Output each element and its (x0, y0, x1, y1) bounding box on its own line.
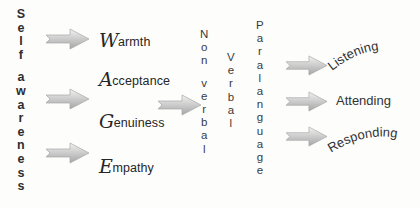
block-arrow-right-icon (46, 142, 90, 164)
diagram-canvas: Selfawareness Warmth Acceptance (0, 0, 420, 208)
stacked-letter: e (201, 91, 207, 104)
stacked-letter: w (16, 85, 26, 99)
skill-responding: Responding (330, 126, 420, 162)
stacked-letter: r (229, 78, 233, 91)
stacked-letter: a (257, 139, 263, 152)
stacked-letter: n (17, 139, 25, 153)
quality-genuiness: Genuiness (99, 110, 165, 132)
stacked-letter: n (201, 55, 207, 68)
block-arrow-right-icon (286, 91, 328, 112)
stacked-letter: e (17, 153, 24, 167)
stacked-letter: e (17, 126, 24, 140)
skill-attending: Attending (336, 93, 391, 108)
skill-label: Responding (325, 124, 399, 155)
quality-warmth: Warmth (99, 29, 150, 51)
stacked-letter: f (19, 49, 23, 63)
stacked-letter: a (228, 105, 234, 118)
stacked-letter: a (257, 60, 263, 73)
quality-remainder: enuiness (114, 116, 165, 130)
quality-remainder: mpathy (112, 161, 154, 175)
stacked-letter: a (201, 130, 207, 143)
stacked-letter: b (228, 92, 234, 105)
block-arrow-right-icon (46, 88, 90, 110)
quality-initial: A (99, 68, 112, 90)
quality-acceptance: Acceptance (99, 68, 170, 90)
stacked-letter: l (259, 73, 262, 86)
block-arrow-right-icon (46, 28, 90, 50)
stacked-letter: e (257, 165, 263, 178)
stacked-letter: s (17, 167, 24, 181)
stacked-letter: r (258, 46, 262, 59)
channel-verbal: Verbal (227, 52, 235, 131)
quality-empathy: Empathy (99, 155, 154, 177)
stacked-letter: u (257, 126, 263, 139)
stacked-letter: l (230, 118, 233, 131)
block-arrow-right-icon (286, 55, 328, 76)
quality-initial: G (99, 110, 114, 132)
quality-initial: E (99, 155, 112, 177)
stacked-letter: s (17, 180, 24, 194)
channel-paralanguage: Paralanguage (256, 20, 264, 178)
skill-label: Listening (325, 38, 380, 73)
stacked-letter: S (17, 8, 25, 22)
quality-remainder: cceptance (112, 74, 170, 88)
self-awareness-label: Selfawareness (16, 8, 26, 194)
stacked-letter: g (257, 112, 263, 125)
quality-initial: W (99, 29, 118, 51)
block-arrow-right-icon (286, 126, 328, 147)
stacked-letter: a (17, 99, 24, 113)
stacked-letter: r (18, 112, 23, 126)
stacked-letter: a (17, 71, 24, 85)
stacked-letter: e (17, 22, 24, 36)
stacked-letter: l (19, 35, 22, 49)
channel-non-verbal: Nonverbal (200, 29, 208, 157)
stacked-letter: l (203, 144, 206, 157)
quality-remainder: armth (118, 35, 150, 49)
block-arrow-right-icon (158, 94, 202, 116)
stacked-letter: v (201, 78, 207, 91)
skill-listening: Listening (330, 41, 420, 75)
